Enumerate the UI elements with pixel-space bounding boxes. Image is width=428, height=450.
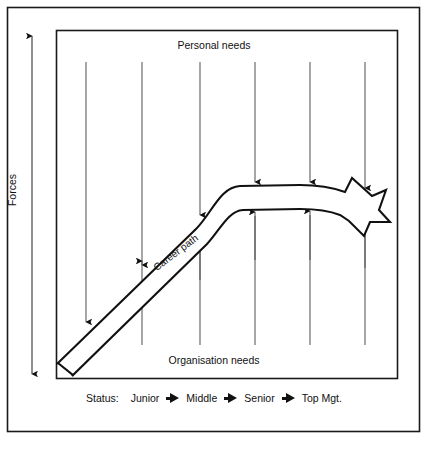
status-caption: Status: bbox=[86, 392, 119, 404]
personal-needs-label: Personal needs bbox=[0, 40, 428, 51]
status-stage-junior: Junior bbox=[131, 392, 160, 404]
status-stage-senior: Senior bbox=[244, 392, 274, 404]
status-stage-middle: Middle bbox=[186, 392, 217, 404]
career-path-band bbox=[58, 178, 390, 375]
career-path-figure: Personal needs Organisation needs Forces… bbox=[0, 0, 428, 450]
right-triangle-arrow-icon bbox=[166, 393, 179, 403]
right-triangle-arrow-icon bbox=[282, 393, 295, 403]
status-stage-top-mgt: Top Mgt. bbox=[302, 392, 342, 404]
right-triangle-arrow-icon bbox=[224, 393, 237, 403]
diagram-canvas bbox=[0, 0, 428, 450]
status-legend: Status: Junior Middle Senior Top Mgt. bbox=[0, 392, 428, 404]
organisation-needs-label: Organisation needs bbox=[0, 355, 428, 366]
force-lines-lower bbox=[86, 215, 365, 345]
forces-axis-label: Forces bbox=[7, 174, 18, 206]
